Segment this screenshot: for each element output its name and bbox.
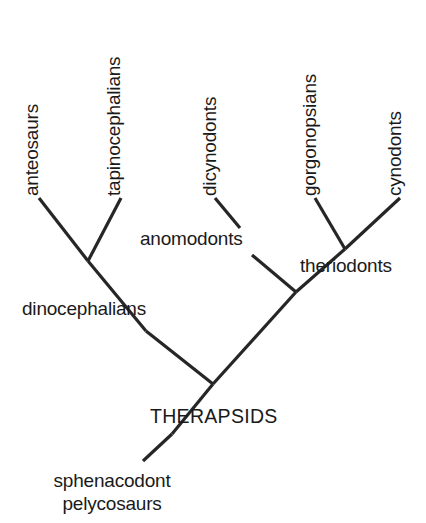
taxon-label-therapsids: THERAPSIDS [150,405,278,427]
branch-tapinocephalians [88,198,121,261]
taxon-label-dicynodonts: dicynodonts [199,97,220,196]
branch-anteosaurs [39,198,88,261]
taxon-label-cynodonts: cynodonts [384,111,405,196]
branch-anomodonts-stem [252,255,296,292]
branch-pelycosaur-root [143,434,172,461]
taxon-label-anomodonts: anomodonts [140,228,243,249]
taxon-label-gorgonopsians: gorgonopsians [299,74,320,196]
branch-cynodonts [345,198,400,249]
taxon-label-dinocephalians: dinocephalians [22,298,146,319]
branch-dinocephalians-stem [88,261,146,331]
branch-dinocephalians-to-therapsids [146,331,213,384]
cladogram-canvas: anteosaurstapinocephaliansdicynodontsgor… [0,0,426,523]
taxon-label-tapinocephalians: tapinocephalians [103,57,124,196]
branch-dicynodonts [215,198,240,228]
tip-labels-group: anteosaurstapinocephaliansdicynodontsgor… [21,57,405,196]
taxon-label-theriodonts: theriodonts [300,255,392,276]
taxon-label-pelycosaurs: pelycosaurs [62,493,161,514]
taxon-label-sphenacodont: sphenacodont [54,470,172,491]
cladogram-diagram: anteosaurstapinocephaliansdicynodontsgor… [0,0,426,523]
node-labels-group: anomodontstheriodontsdinocephaliansTHERA… [22,228,392,514]
taxon-label-anteosaurs: anteosaurs [21,104,42,196]
branch-crown-to-therapsids [213,292,296,384]
branch-gorgonopsians [315,198,345,249]
